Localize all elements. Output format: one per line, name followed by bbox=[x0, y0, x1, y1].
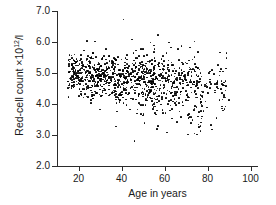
data-point bbox=[89, 72, 91, 74]
data-point bbox=[166, 93, 168, 95]
data-point bbox=[176, 80, 178, 82]
data-point bbox=[225, 90, 227, 92]
data-point bbox=[134, 70, 136, 72]
x-axis-label: Age in years bbox=[57, 188, 258, 199]
data-point bbox=[86, 40, 88, 42]
data-point bbox=[74, 54, 76, 56]
data-point bbox=[125, 99, 127, 101]
data-point bbox=[95, 71, 97, 73]
data-point bbox=[83, 50, 85, 52]
data-point bbox=[158, 100, 160, 102]
data-point bbox=[116, 111, 118, 113]
data-point bbox=[136, 87, 138, 89]
data-point bbox=[168, 42, 170, 44]
data-point bbox=[150, 42, 152, 44]
data-point bbox=[145, 104, 147, 106]
data-point bbox=[131, 76, 133, 78]
data-point bbox=[102, 57, 104, 59]
data-point bbox=[91, 94, 93, 96]
data-point bbox=[169, 71, 171, 73]
data-point bbox=[96, 92, 98, 94]
data-point bbox=[76, 72, 78, 74]
data-point bbox=[159, 89, 161, 91]
y-axis-tick-label: 3.0 bbox=[14, 130, 50, 140]
data-point bbox=[148, 86, 150, 88]
data-point bbox=[200, 125, 202, 127]
data-point bbox=[217, 80, 219, 82]
data-point bbox=[71, 57, 73, 59]
x-axis-tick-label: 100 bbox=[236, 174, 266, 184]
data-point bbox=[100, 80, 102, 82]
data-point bbox=[198, 81, 200, 83]
data-point bbox=[105, 59, 107, 61]
data-point bbox=[174, 73, 176, 75]
data-point bbox=[123, 85, 125, 87]
data-point bbox=[221, 106, 223, 108]
data-point bbox=[214, 83, 216, 85]
data-point bbox=[168, 75, 170, 77]
data-point bbox=[167, 103, 169, 105]
data-point bbox=[138, 102, 140, 104]
data-point bbox=[85, 66, 87, 68]
data-point bbox=[214, 90, 216, 92]
data-point bbox=[147, 96, 149, 98]
data-point bbox=[132, 98, 134, 100]
data-point bbox=[104, 70, 106, 72]
data-point bbox=[171, 118, 173, 120]
data-point bbox=[174, 94, 176, 96]
data-point bbox=[197, 116, 199, 118]
data-point bbox=[108, 89, 110, 91]
data-point bbox=[68, 65, 70, 67]
data-point bbox=[211, 129, 213, 131]
data-point bbox=[93, 78, 95, 80]
data-point bbox=[219, 71, 221, 73]
data-point bbox=[157, 34, 159, 36]
data-point bbox=[172, 64, 174, 66]
data-point bbox=[189, 47, 191, 49]
data-point bbox=[162, 63, 164, 65]
data-point bbox=[219, 75, 221, 77]
data-point bbox=[145, 63, 147, 65]
data-point bbox=[71, 79, 73, 81]
data-point bbox=[178, 74, 180, 76]
data-point bbox=[202, 96, 204, 98]
y-axis-tick-label: 7.0 bbox=[14, 6, 50, 16]
data-point bbox=[217, 64, 219, 66]
data-point bbox=[143, 113, 145, 115]
data-point bbox=[105, 93, 107, 95]
data-point bbox=[216, 84, 218, 86]
data-point bbox=[169, 110, 171, 112]
data-point bbox=[209, 87, 211, 89]
data-point bbox=[205, 101, 207, 103]
data-point bbox=[122, 73, 124, 75]
data-point bbox=[156, 110, 158, 112]
data-point bbox=[68, 96, 70, 98]
data-point bbox=[112, 64, 114, 66]
data-point bbox=[154, 68, 156, 70]
data-point bbox=[200, 110, 202, 112]
data-point bbox=[161, 58, 163, 60]
data-point bbox=[186, 63, 188, 65]
data-point bbox=[143, 92, 145, 94]
data-point bbox=[162, 109, 164, 111]
data-point bbox=[191, 75, 193, 77]
y-axis-tick-label: 4.0 bbox=[14, 99, 50, 109]
data-point bbox=[168, 69, 170, 71]
data-point bbox=[182, 83, 184, 85]
data-point bbox=[222, 71, 224, 73]
data-point bbox=[152, 78, 154, 80]
data-point bbox=[79, 83, 81, 85]
data-point bbox=[161, 92, 163, 94]
data-point bbox=[182, 105, 184, 107]
data-point bbox=[114, 68, 116, 70]
data-point bbox=[154, 102, 156, 104]
data-point bbox=[217, 88, 219, 90]
data-point bbox=[144, 122, 146, 124]
data-point bbox=[79, 69, 81, 71]
data-point bbox=[102, 91, 104, 93]
data-point bbox=[90, 99, 92, 101]
data-point bbox=[108, 55, 110, 57]
data-point bbox=[134, 90, 136, 92]
data-point bbox=[141, 61, 143, 63]
data-point bbox=[163, 92, 165, 94]
